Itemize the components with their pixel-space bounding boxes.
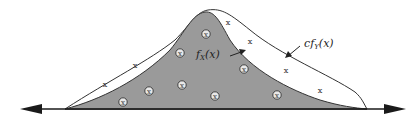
accepted-point-icon: x [273, 91, 281, 100]
svg-text:x: x [180, 82, 184, 90]
envelope-label-cf: cf [304, 37, 314, 50]
svg-text:x: x [213, 93, 217, 101]
target-label-arg: (x) [205, 48, 220, 61]
accepted-point-icon: x [202, 30, 210, 39]
accepted-point-icon: x [145, 87, 153, 96]
rejected-point-icon: x [103, 80, 108, 89]
svg-text:x: x [204, 31, 208, 39]
accepted-point-icon: x [119, 98, 127, 107]
rejected-point-icon: x [248, 37, 253, 46]
rejected-point-icon: x [284, 66, 289, 75]
accepted-point-icon: x [240, 65, 248, 74]
svg-text:x: x [121, 99, 125, 107]
accepted-point-icon: x [178, 81, 186, 90]
accepted-point-icon: x [176, 49, 184, 58]
rejected-point-icon: x [318, 86, 323, 95]
target-density-label: fX(x) [196, 48, 220, 62]
accepted-point-icon: x [211, 92, 219, 101]
svg-text:x: x [147, 88, 151, 96]
axis-left-arrow-icon [20, 104, 42, 114]
rejected-point-icon: x [226, 18, 231, 27]
rejection-sampling-diagram: xxxxxxxx xxxxxx fX(x) cfY(x) [0, 0, 419, 123]
rejected-point-icon: x [133, 61, 138, 70]
axis-right-arrow-icon [384, 104, 406, 114]
svg-text:x: x [275, 92, 279, 100]
envelope-density-label: cfY(x) [304, 37, 334, 51]
svg-text:x: x [178, 50, 182, 58]
svg-text:x: x [242, 66, 246, 74]
envelope-label-arg: (x) [319, 37, 334, 50]
